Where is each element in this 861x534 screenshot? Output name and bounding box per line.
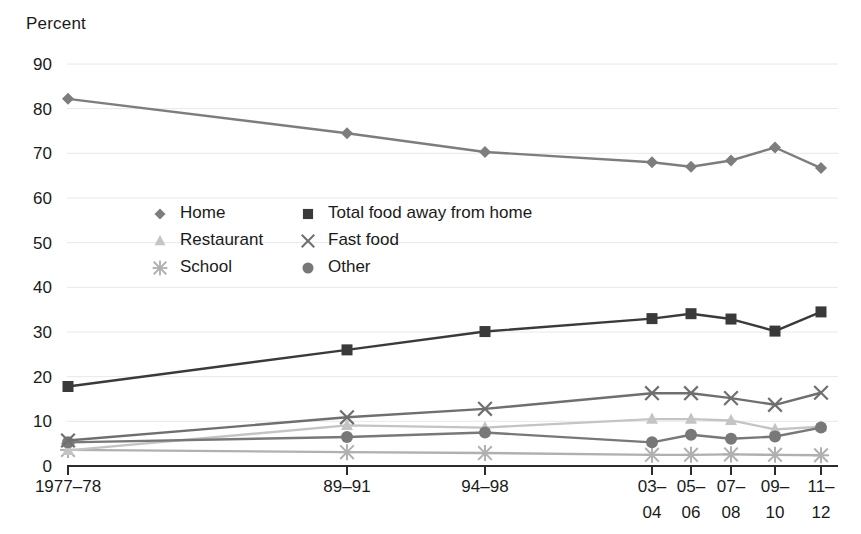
legend-item-home[interactable]: Home — [154, 203, 225, 222]
data-point-marker — [646, 436, 658, 448]
legend-item-label: Fast food — [328, 230, 399, 249]
data-point-marker — [816, 306, 827, 317]
x-axis-group: 1977–7889–9194–9803–0405–0607–0809–1011–… — [35, 466, 838, 522]
data-point-marker — [683, 447, 699, 463]
data-point-marker — [726, 314, 737, 325]
data-point-marker — [341, 431, 353, 443]
x-axis-tick-label: 12 — [812, 503, 831, 522]
data-point-marker — [339, 444, 355, 460]
series-home — [62, 93, 827, 174]
data-point-marker — [480, 326, 491, 337]
y-axis-tick-label: 40 — [33, 278, 52, 297]
y-axis-tick-label: 10 — [33, 412, 52, 431]
legend-item-label: Total food away from home — [328, 203, 532, 222]
data-point-marker — [479, 427, 491, 439]
data-point-marker — [154, 235, 165, 245]
data-point-marker — [767, 447, 783, 463]
y-axis-tick-label: 30 — [33, 323, 52, 342]
line-chart-svg: 0102030405060708090 1977–7889–9194–9803–… — [0, 0, 861, 534]
x-axis-tick-label: 07– — [717, 477, 746, 496]
legend-item-label: Restaurant — [180, 230, 263, 249]
series-line — [68, 450, 821, 455]
legend-item-label: School — [180, 257, 232, 276]
y-axis-tick-label: 0 — [43, 457, 52, 476]
data-point-marker — [62, 93, 74, 105]
data-point-marker — [303, 209, 313, 219]
data-point-marker — [302, 235, 315, 248]
series-line — [68, 312, 821, 387]
data-point-marker — [644, 447, 660, 463]
data-point-marker — [725, 433, 737, 445]
series-school — [60, 442, 829, 463]
legend-item-label: Other — [328, 257, 371, 276]
data-point-marker — [154, 208, 165, 219]
x-axis-tick-label: 06 — [682, 503, 701, 522]
data-point-marker — [477, 445, 493, 461]
legend-group: HomeTotal food away from homeRestaurantF… — [153, 203, 532, 276]
y-axis-tick-label: 70 — [33, 144, 52, 163]
data-point-marker — [153, 261, 168, 276]
data-point-marker — [686, 308, 697, 319]
data-point-marker — [814, 386, 828, 400]
x-axis-tick-label: 04 — [643, 503, 662, 522]
data-point-marker — [646, 156, 658, 168]
data-point-marker — [647, 313, 658, 324]
x-axis-tick-label: 89–91 — [323, 477, 370, 496]
y-axis-tick-label: 50 — [33, 234, 52, 253]
legend-item-label: Home — [180, 203, 225, 222]
data-point-marker — [302, 262, 313, 273]
y-axis-tick-label: 20 — [33, 368, 52, 387]
x-axis-tick-label: 03– — [638, 477, 667, 496]
data-series-group — [60, 93, 829, 463]
x-axis-tick-label: 94–98 — [461, 477, 508, 496]
legend-item-total-food-away-from-home[interactable]: Total food away from home — [303, 203, 532, 222]
data-point-marker — [63, 381, 74, 392]
data-point-marker — [685, 429, 697, 441]
legend-item-other[interactable]: Other — [302, 257, 370, 276]
data-point-marker — [770, 326, 781, 337]
data-point-marker — [769, 142, 781, 154]
series-line — [68, 99, 821, 168]
y-axis-tick-label: 80 — [33, 100, 52, 119]
x-axis-tick-label: 11– — [807, 477, 835, 496]
data-point-marker — [769, 431, 781, 443]
x-axis-tick-label: 05– — [677, 477, 706, 496]
data-point-marker — [341, 127, 353, 139]
x-axis-tick-label: 09– — [761, 477, 790, 496]
data-point-marker — [479, 146, 491, 158]
data-point-marker — [815, 162, 827, 174]
data-point-marker — [725, 154, 737, 166]
series-total-food-away-from-home — [63, 306, 827, 392]
y-axis-ticks-group: 0102030405060708090 — [33, 55, 52, 476]
legend-item-school[interactable]: School — [153, 257, 232, 276]
series-other — [62, 422, 827, 449]
data-point-marker — [813, 447, 829, 463]
y-axis-tick-label: 60 — [33, 189, 52, 208]
data-point-marker — [62, 436, 74, 448]
x-axis-tick-label: 1977–78 — [35, 477, 101, 496]
data-point-marker — [685, 161, 697, 173]
data-point-marker — [815, 422, 827, 434]
legend-item-fast-food[interactable]: Fast food — [302, 230, 399, 249]
series-line — [68, 428, 821, 443]
chart-container: Percent 0102030405060708090 1977–7889–91… — [0, 0, 861, 534]
legend-item-restaurant[interactable]: Restaurant — [154, 230, 263, 249]
data-point-marker — [342, 344, 353, 355]
x-axis-tick-label: 10 — [766, 503, 785, 522]
y-axis-tick-label: 90 — [33, 55, 52, 74]
data-point-marker — [723, 446, 739, 462]
x-axis-tick-label: 08 — [722, 503, 741, 522]
